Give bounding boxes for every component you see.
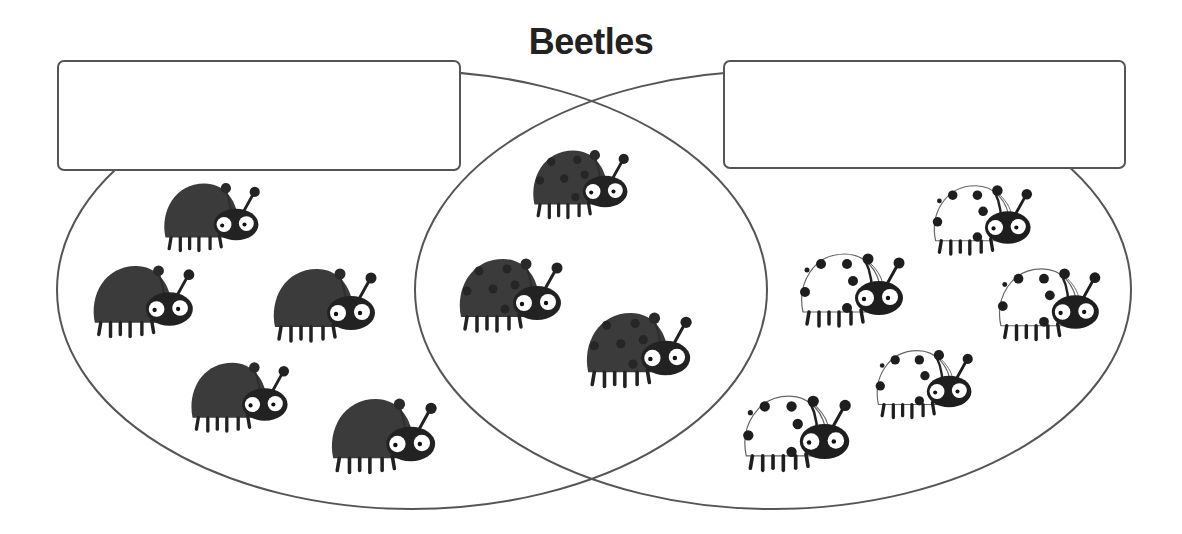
left-set-beetles bbox=[94, 183, 437, 472]
left-set-label-box[interactable] bbox=[57, 60, 461, 171]
beetle-icon-white-spotted bbox=[876, 350, 973, 417]
beetle-icon-dark bbox=[191, 362, 289, 431]
beetle-icon-dark-spotted bbox=[533, 150, 629, 217]
beetle-icon-white-spotted bbox=[743, 396, 851, 471]
right-set-beetles bbox=[743, 185, 1100, 470]
beetle-icon-dark bbox=[164, 183, 260, 250]
beetle-icon-white-spotted bbox=[998, 268, 1100, 339]
beetle-icon-white-spotted bbox=[933, 185, 1032, 254]
right-set-label-box[interactable] bbox=[723, 60, 1126, 169]
beetle-icon-dark bbox=[332, 399, 437, 473]
beetle-icon-dark bbox=[94, 265, 195, 336]
intersection-beetles bbox=[460, 150, 692, 386]
beetle-icon-dark-spotted bbox=[460, 259, 563, 332]
diagram-title: Beetles bbox=[0, 22, 1182, 62]
beetle-icon-dark-spotted bbox=[587, 313, 692, 387]
beetle-icon-white-spotted bbox=[800, 254, 905, 327]
beetle-icon-dark bbox=[274, 269, 377, 342]
